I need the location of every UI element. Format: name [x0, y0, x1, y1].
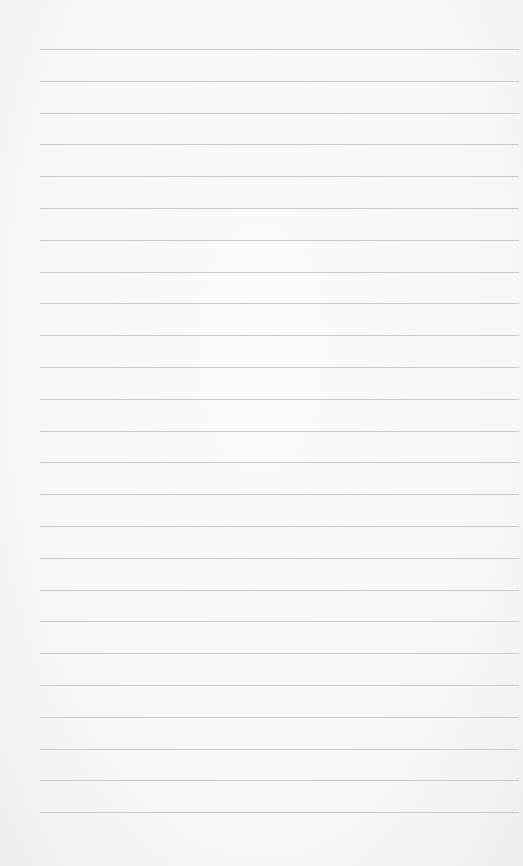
- ruled-line: [40, 49, 519, 50]
- ruled-line: [40, 462, 519, 463]
- ruled-line: [40, 621, 519, 622]
- lined-paper: [0, 0, 523, 866]
- ruled-line: [40, 494, 519, 495]
- ruled-line: [40, 812, 519, 813]
- ruled-line: [40, 113, 519, 114]
- ruled-line: [40, 431, 519, 432]
- ruled-line: [40, 176, 519, 177]
- ruled-line: [40, 367, 519, 368]
- ruled-line: [40, 272, 519, 273]
- ruled-line: [40, 780, 519, 781]
- ruled-line: [40, 685, 519, 686]
- ruled-line: [40, 749, 519, 750]
- ruled-line: [40, 399, 519, 400]
- ruled-line: [40, 240, 519, 241]
- ruled-line: [40, 208, 519, 209]
- ruled-line: [40, 653, 519, 654]
- ruled-line: [40, 590, 519, 591]
- ruled-line: [40, 526, 519, 527]
- ruled-line: [40, 303, 519, 304]
- ruled-line: [40, 81, 519, 82]
- ruled-line: [40, 144, 519, 145]
- ruled-line: [40, 335, 519, 336]
- ruled-line: [40, 558, 519, 559]
- ruled-line: [40, 717, 519, 718]
